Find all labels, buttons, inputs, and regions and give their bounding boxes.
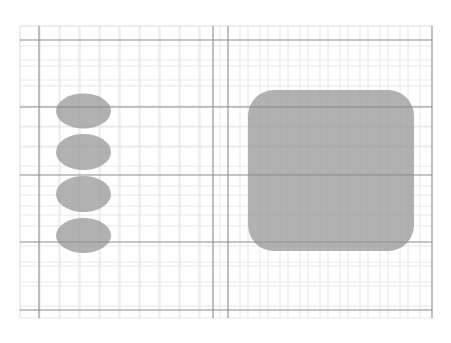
scene-svg[interactable] [0,0,451,343]
grid-canvas[interactable] [0,0,451,343]
shape-ellipse-1[interactable] [56,94,111,129]
drawing-surface[interactable] [0,0,451,343]
shape-ellipse-2[interactable] [56,134,111,170]
shape-ellipse-3[interactable] [56,176,111,212]
shape-rounded-rectangle[interactable] [248,90,414,251]
shape-ellipse-4[interactable] [56,218,111,253]
